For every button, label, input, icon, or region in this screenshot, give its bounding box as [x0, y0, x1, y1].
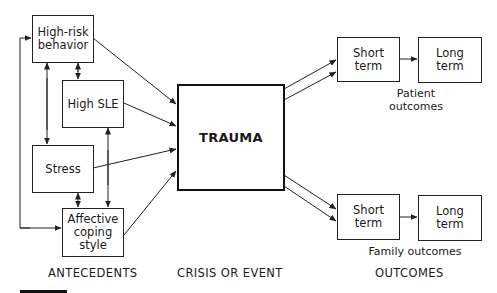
box-affective-coping-style: Affective coping style [62, 208, 124, 257]
family-long-term-label: Long term [430, 205, 470, 231]
section-crisis-or-event: CRISIS OR EVENT [177, 266, 283, 280]
box-family-long-term: Long term [418, 195, 482, 241]
patient-short-term-label: Short term [349, 47, 389, 73]
patient-outcomes-label: Patient outcomes [383, 87, 449, 113]
section-antecedents: ANTECEDENTS [48, 266, 138, 280]
box-trauma: TRAUMA [177, 84, 285, 191]
box-stress: Stress [32, 145, 94, 193]
affective-coping-style-label: Affective coping style [67, 213, 119, 252]
box-high-sle: High SLE [62, 80, 124, 128]
high-sle-label: High SLE [67, 98, 118, 111]
family-outcomes-label: Family outcomes [355, 245, 475, 258]
box-patient-long-term: Long term [418, 37, 482, 83]
section-outcomes: OUTCOMES [375, 266, 444, 280]
stress-label: Stress [45, 163, 80, 176]
box-patient-short-term: Short term [337, 37, 400, 82]
patient-long-term-label: Long term [430, 47, 470, 73]
family-short-term-label: Short term [349, 204, 389, 230]
trauma-label: TRAUMA [199, 131, 263, 144]
box-high-risk-behavior: High-risk behavior [32, 15, 94, 63]
high-risk-behavior-label: High-risk behavior [37, 26, 89, 52]
box-family-short-term: Short term [337, 194, 400, 240]
